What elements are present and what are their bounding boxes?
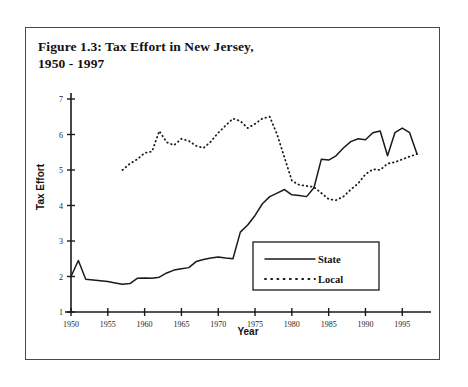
y-tick-label: 1	[59, 308, 63, 317]
y-tick-label: 3	[59, 237, 63, 246]
series-line-local	[123, 117, 417, 200]
x-tick-label: 1950	[63, 320, 79, 329]
x-tick-label: 1965	[173, 320, 189, 329]
x-tick-label: 1960	[137, 320, 153, 329]
x-tick-label: 1995	[394, 320, 410, 329]
x-tick-label: 1955	[100, 320, 116, 329]
x-tick-label: 1980	[284, 320, 300, 329]
legend-label-local: Local	[318, 274, 343, 285]
chart-legend: StateLocal	[253, 242, 379, 290]
y-tick-label: 6	[59, 131, 63, 140]
y-axis-title: Tax Effort	[35, 163, 46, 210]
line-chart: 1950195519601965197019751980198519901995…	[25, 27, 440, 360]
x-tick-label: 1985	[321, 320, 337, 329]
y-tick-label: 5	[59, 166, 63, 175]
y-tick-label: 7	[59, 95, 63, 104]
y-tick-label: 4	[59, 202, 63, 211]
legend-label-state: State	[318, 254, 341, 265]
plot-area: 1950195519601965197019751980198519901995…	[25, 27, 440, 360]
legend-box	[253, 242, 379, 290]
y-tick-label: 2	[59, 273, 63, 282]
figure-container: Figure 1.3: Tax Effort in New Jersey, 19…	[0, 0, 468, 387]
x-axis-title: Year	[237, 326, 258, 337]
y-tick-labels: 1234567	[59, 95, 63, 317]
x-tick-label: 1970	[210, 320, 226, 329]
x-tick-label: 1990	[357, 320, 373, 329]
